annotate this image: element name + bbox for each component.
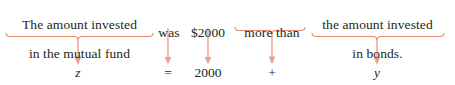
phrase-plus-term: more than bbox=[236, 11, 308, 55]
phrase-equals-term-line-1: was bbox=[156, 26, 182, 41]
phrase-z-term-line-1: The amount invested bbox=[2, 18, 157, 33]
phrase-plus-term-line-1: more than bbox=[236, 26, 308, 41]
phrase-constant-term: $2000 bbox=[185, 11, 231, 55]
arrow-head-equals-term bbox=[165, 57, 171, 65]
arrow-head-constant-term bbox=[205, 57, 211, 65]
phrase-y-term-line-2: in bonds. bbox=[300, 47, 455, 62]
symbol-constant-term: 2000 bbox=[178, 66, 238, 80]
phrase-y-term-line-1: the amount invested bbox=[300, 18, 455, 33]
symbol-plus-term: + bbox=[242, 66, 302, 80]
arrow-head-plus-term bbox=[269, 57, 275, 65]
symbol-z-term: z bbox=[48, 66, 108, 80]
symbol-y-term: y bbox=[347, 66, 407, 80]
phrase-z-term-line-2: in the mutual fund bbox=[2, 47, 157, 62]
translation-diagram: The amount invested in the mutual fund w… bbox=[0, 0, 455, 85]
phrase-constant-term-line-1: $2000 bbox=[185, 26, 231, 41]
phrase-equals-term: was bbox=[156, 11, 182, 55]
